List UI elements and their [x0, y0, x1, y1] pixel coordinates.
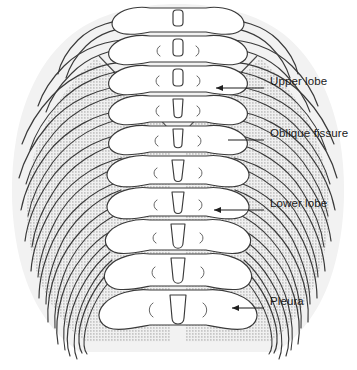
- label-lower-lobe: Lower lobe: [270, 198, 327, 210]
- label-oblique-fissure: Oblique fissure: [270, 128, 348, 140]
- label-upper-lobe: Upper lobe: [270, 76, 327, 88]
- label-pleura: Pleura: [270, 296, 304, 308]
- thorax-diagram: [0, 0, 357, 370]
- vertebral-column: [99, 0, 257, 370]
- figure-canvas: Upper lobe Oblique fissure Lower lobe Pl…: [0, 0, 357, 370]
